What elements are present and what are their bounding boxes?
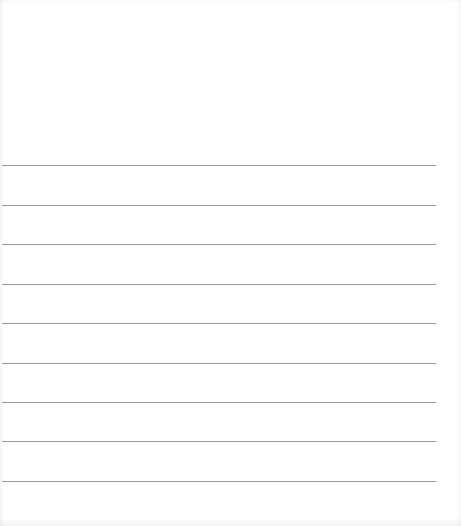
rule-line [2,441,436,442]
rule-line [2,244,436,245]
rule-line [2,284,436,285]
rule-line [2,323,436,324]
rule-line [2,363,436,364]
lined-paper-page [0,0,461,526]
rule-line [2,165,436,166]
rule-line [2,205,436,206]
rule-line [2,402,436,403]
rule-line [2,481,436,482]
